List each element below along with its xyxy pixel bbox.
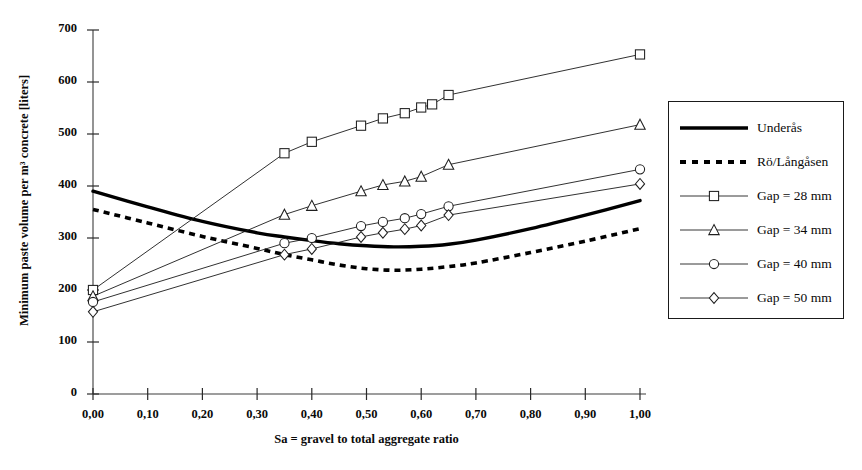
marker-circle	[417, 209, 426, 218]
x-tick-label: 0,10	[125, 407, 171, 422]
y-tick-label: 700	[37, 21, 77, 36]
marker-square	[417, 103, 426, 112]
marker-triangle	[416, 171, 426, 181]
x-tick-label: 0,40	[289, 407, 335, 422]
y-tick-label: 300	[37, 229, 77, 244]
marker-triangle	[307, 200, 317, 210]
marker-circle	[378, 217, 387, 226]
marker-diamond	[417, 220, 426, 231]
legend-label: Rö/Långåsen	[757, 154, 828, 170]
marker-diamond	[356, 232, 365, 243]
series-2	[88, 50, 644, 295]
x-tick-label: 0,50	[344, 407, 390, 422]
marker-diamond	[709, 293, 718, 304]
marker-square	[378, 114, 387, 123]
series-3	[88, 119, 645, 301]
x-tick-label: 1,00	[617, 407, 663, 422]
legend-label: Gap = 50 mm	[757, 290, 832, 306]
marker-circle	[709, 259, 718, 268]
x-tick-label: 0,60	[398, 407, 444, 422]
marker-diamond	[280, 249, 289, 260]
y-axis-title-wrap: Minimum paste volume per m³ concrete [li…	[10, 0, 40, 400]
legend-label: Gap = 28 mm	[757, 188, 832, 204]
marker-square	[307, 137, 316, 146]
series-0	[93, 191, 640, 247]
legend-swatch-diamond-icon	[678, 287, 750, 309]
legend-swatch-thick-solid-icon	[678, 117, 750, 139]
marker-diamond	[400, 224, 409, 235]
x-tick-label: 0,80	[508, 407, 554, 422]
chart-figure: Minimum paste volume per m³ concrete [li…	[0, 0, 862, 470]
legend-swatch-dotted-icon	[678, 151, 750, 173]
y-tick-label: 600	[37, 73, 77, 88]
marker-diamond	[88, 306, 97, 317]
legend-item[interactable]: Gap = 28 mm	[669, 178, 845, 214]
marker-diamond	[307, 244, 316, 255]
marker-triangle	[279, 209, 289, 219]
marker-square	[635, 50, 644, 59]
x-tick-label: 0,20	[179, 407, 225, 422]
legend-label: Gap = 34 mm	[757, 222, 832, 238]
legend-item[interactable]: Rö/Långåsen	[669, 144, 845, 180]
legend-item[interactable]: Gap = 34 mm	[669, 212, 845, 248]
legend-item[interactable]: Gap = 40 mm	[669, 246, 845, 282]
x-axis-title: Sa = gravel to total aggregate ratio	[93, 432, 640, 447]
marker-circle	[280, 239, 289, 248]
series-line	[93, 191, 640, 247]
marker-square	[428, 100, 437, 109]
x-tick-label: 0,00	[70, 407, 116, 422]
marker-diamond	[378, 227, 387, 238]
y-tick-label: 400	[37, 177, 77, 192]
legend-label: Underås	[757, 120, 802, 136]
legend-swatch-circle-icon	[678, 253, 750, 275]
marker-square	[444, 90, 453, 99]
x-tick-label: 0,90	[562, 407, 608, 422]
x-tick-label: 0,70	[453, 407, 499, 422]
legend-box: UnderåsRö/LångåsenGap = 28 mmGap = 34 mm…	[668, 101, 844, 319]
marker-square	[280, 149, 289, 158]
marker-diamond	[635, 179, 644, 190]
marker-square	[356, 121, 365, 130]
y-tick-label: 500	[37, 125, 77, 140]
x-tick-label: 0,30	[234, 407, 280, 422]
legend-item[interactable]: Underås	[669, 110, 845, 146]
y-tick-label: 0	[37, 385, 77, 400]
marker-square	[709, 191, 718, 200]
legend-label: Gap = 40 mm	[757, 256, 832, 272]
marker-circle	[88, 297, 97, 306]
series-line	[93, 125, 640, 297]
marker-circle	[307, 233, 316, 242]
legend-item[interactable]: Gap = 50 mm	[669, 280, 845, 316]
y-axis-title: Minimum paste volume per m³ concrete [li…	[18, 74, 33, 325]
marker-triangle	[356, 186, 366, 196]
marker-circle	[635, 165, 644, 174]
y-tick-label: 100	[37, 333, 77, 348]
marker-diamond	[444, 210, 453, 221]
marker-square	[400, 109, 409, 118]
marker-circle	[400, 214, 409, 223]
series-line	[93, 54, 640, 290]
marker-circle	[356, 221, 365, 230]
y-tick-label: 200	[37, 281, 77, 296]
legend-swatch-square-icon	[678, 185, 750, 207]
marker-triangle	[635, 119, 645, 129]
legend-swatch-triangle-icon	[678, 219, 750, 241]
marker-triangle	[400, 176, 410, 186]
